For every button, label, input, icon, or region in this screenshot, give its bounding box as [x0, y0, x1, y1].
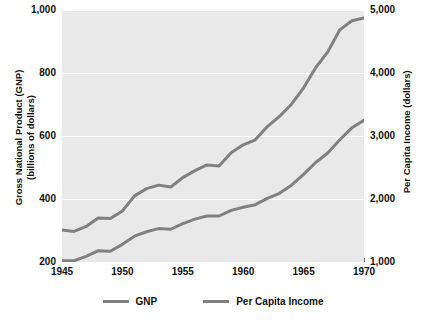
y-axis-left-tick-label: 800: [16, 67, 56, 78]
x-axis-tick-label: 1945: [40, 266, 84, 277]
chart-legend: GNPPer Capita Income: [0, 296, 426, 307]
chart-figure: Gross National Product (GNP) (billions o…: [0, 0, 426, 320]
y-axis-right-tick-label: 3,000: [370, 130, 414, 141]
gridline: [62, 262, 364, 263]
legend-swatch: [103, 300, 129, 303]
y-axis-right-tick-label: 2,000: [370, 193, 414, 204]
series-line: [62, 18, 364, 232]
x-axis-tick-label: 1970: [342, 266, 386, 277]
y-axis-right-tick-label: 4,000: [370, 67, 414, 78]
x-axis-tick-label: 1950: [100, 266, 144, 277]
x-axis-tick-label: 1960: [221, 266, 265, 277]
y-axis-right-tick-label: 5,000: [370, 4, 414, 15]
legend-item: Per Capita Income: [203, 296, 323, 307]
plot-area: [62, 10, 364, 262]
x-axis-tick-label: 1955: [161, 266, 205, 277]
series-line: [62, 120, 364, 260]
legend-label: Per Capita Income: [236, 296, 323, 307]
y-axis-left-tick-label: 400: [16, 193, 56, 204]
legend-swatch: [203, 300, 229, 303]
legend-item: GNP: [103, 296, 158, 307]
y-axis-left-tick-label: 1,000: [16, 4, 56, 15]
x-axis-tick-label: 1965: [282, 266, 326, 277]
y-axis-left-tick-label: 600: [16, 130, 56, 141]
legend-label: GNP: [136, 296, 158, 307]
series-lines: [62, 10, 364, 262]
x-axis-tick-mark: [364, 258, 365, 262]
